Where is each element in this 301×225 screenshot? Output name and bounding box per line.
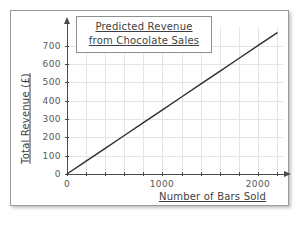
screenshot-root: 0100200300400500600700010002000 Predicte… bbox=[0, 0, 301, 225]
chart-panel: 0100200300400500600700010002000 Predicte… bbox=[10, 10, 289, 206]
chart-title-box: Predicted Revenue from Chocolate Sales bbox=[76, 16, 212, 53]
x-axis-label: Number of Bars Sold bbox=[159, 191, 266, 202]
chart-title-line-2: from Chocolate Sales bbox=[83, 34, 205, 48]
plot-area: 0100200300400500600700010002000 Predicte… bbox=[11, 11, 290, 207]
chart-title-line-1: Predicted Revenue bbox=[83, 20, 205, 34]
y-axis-label-wrapper: Total Revenue (£) bbox=[14, 71, 33, 167]
y-axis-label: Total Revenue (£) bbox=[20, 73, 31, 164]
